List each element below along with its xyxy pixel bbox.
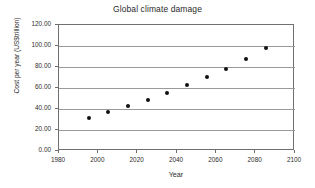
data-point bbox=[165, 91, 169, 95]
data-point bbox=[106, 110, 110, 114]
y-tick-label: 40.00 bbox=[1, 104, 51, 111]
x-tick-label: 1980 bbox=[38, 156, 78, 164]
data-point bbox=[205, 75, 209, 79]
y-tick-label: 80.00 bbox=[1, 62, 51, 69]
x-tick-label: 2080 bbox=[235, 156, 275, 164]
y-tick-label: 0.00 bbox=[1, 146, 51, 153]
data-point bbox=[224, 67, 228, 71]
plot-area bbox=[58, 24, 294, 150]
chart-title: Global climate damage bbox=[0, 4, 315, 14]
y-axis-title: Cost per year (US$trillion) bbox=[13, 0, 20, 116]
gridline bbox=[59, 130, 295, 131]
x-tick-mark bbox=[58, 150, 59, 153]
y-tick-label: 100.00 bbox=[1, 41, 51, 48]
data-point bbox=[87, 116, 91, 120]
x-tick-mark bbox=[294, 150, 295, 153]
y-tick-label: 60.00 bbox=[1, 83, 51, 90]
gridline bbox=[59, 67, 295, 68]
x-tick-label: 2000 bbox=[77, 156, 117, 164]
x-tick-label: 2060 bbox=[195, 156, 235, 164]
x-tick-label: 2040 bbox=[156, 156, 196, 164]
data-point bbox=[264, 46, 268, 50]
y-tick-mark bbox=[55, 87, 58, 88]
x-tick-mark bbox=[176, 150, 177, 153]
gridline bbox=[59, 46, 295, 47]
x-axis-title: Year bbox=[58, 170, 294, 179]
data-point bbox=[244, 57, 248, 61]
y-tick-mark bbox=[55, 24, 58, 25]
y-tick-mark bbox=[55, 45, 58, 46]
data-point bbox=[146, 98, 150, 102]
y-tick-mark bbox=[55, 66, 58, 67]
x-tick-mark bbox=[136, 150, 137, 153]
x-tick-mark bbox=[97, 150, 98, 153]
climate-damage-chart: Global climate damage Cost per year (US$… bbox=[0, 0, 315, 188]
x-tick-label: 2100 bbox=[274, 156, 314, 164]
x-tick-label: 2020 bbox=[117, 156, 157, 164]
x-tick-mark bbox=[215, 150, 216, 153]
x-tick-mark bbox=[254, 150, 255, 153]
gridline bbox=[59, 88, 295, 89]
y-tick-label: 20.00 bbox=[1, 125, 51, 132]
y-tick-mark bbox=[55, 129, 58, 130]
data-point bbox=[126, 104, 130, 108]
gridline bbox=[59, 109, 295, 110]
y-tick-label: 120.00 bbox=[1, 20, 51, 27]
y-tick-mark bbox=[55, 108, 58, 109]
